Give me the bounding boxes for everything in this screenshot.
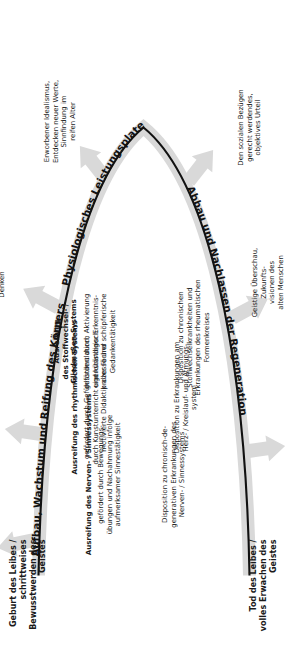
spirit-node-soziale-bezuege: Den sozialen Bezügen gerecht werdendes, … xyxy=(236,75,262,179)
spirit-node-idealistisch: Idealistisches, selbstständiges Denken xyxy=(0,239,6,329)
diagram-canvas: Aufbau, Wachstum und Reifung des Körpers… xyxy=(0,0,287,647)
spirit-node-erworbener-idealismus: Erworbener Idealismus, Entdecken neuer W… xyxy=(42,67,76,175)
system-decline-stoffwechsel: Disposition zu chronischen Stoffwechselk… xyxy=(176,263,210,411)
spirit-node-geistige-ueberschau: Geistige Überschau, Zukunfts- visionen d… xyxy=(250,239,284,325)
system-title-stoffwechsel: Ausreifung des Stoffwechsel- / Gliedmaße… xyxy=(52,279,78,403)
endpoint-death-label: Tod des Leibes / volles Erwachen des Gei… xyxy=(248,539,277,647)
endpoint-birth-label: Geburt des Leibes / schrittweises Bewuss… xyxy=(8,539,47,647)
system-promotion-stoffwechsel: gefördert durch Aktivierung eigenständig… xyxy=(82,273,116,409)
